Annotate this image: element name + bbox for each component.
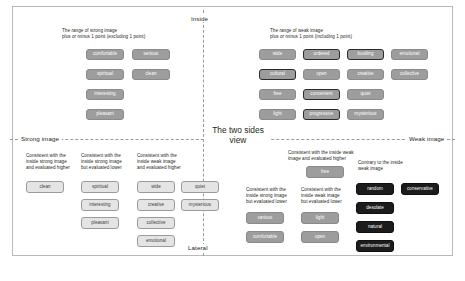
- box-open-lateral: open: [301, 231, 339, 243]
- box-progressive: progressive: [303, 109, 340, 120]
- box-environmental: environmental: [356, 240, 394, 252]
- box-interesting: interesting: [86, 89, 124, 100]
- axis-label-lateral: Lateral: [185, 244, 211, 251]
- box-cultural: cultural: [259, 69, 296, 80]
- caption-br-group-3: Consistent with the inside weak image bu…: [301, 187, 349, 205]
- box-open-top: open: [303, 69, 340, 80]
- box-serious: serious: [132, 49, 170, 60]
- vertical-axis: [203, 10, 204, 256]
- box-light-lateral: light: [301, 212, 339, 224]
- box-light-top: light: [259, 109, 296, 120]
- box-free-lateral: free: [306, 166, 344, 178]
- box-mysterious-top: mysterious: [347, 109, 384, 120]
- box-natural: natural: [356, 221, 394, 233]
- box-pleasant: pleasant: [86, 109, 124, 120]
- caption-bl-group-1: Consistent with the inside strong image …: [26, 153, 74, 171]
- box-convenient: convenient: [303, 89, 340, 100]
- box-creative-lateral: creative: [137, 199, 175, 211]
- box-clean-lateral: clean: [26, 181, 64, 193]
- box-collective-top: collective: [391, 69, 428, 80]
- box-random: random: [356, 183, 394, 195]
- box-spiritual-lateral: spiritual: [81, 181, 119, 193]
- box-interesting-lateral: interesting: [81, 199, 119, 211]
- box-wide-lateral: wide: [137, 181, 175, 193]
- box-collective-lateral: collective: [137, 217, 175, 229]
- center-label: The two sides view: [206, 125, 270, 146]
- box-comfortable-lateral: comfortable: [246, 231, 284, 243]
- box-ordered: ordered: [303, 49, 340, 60]
- box-quiet-lateral: quiet: [181, 181, 219, 193]
- caption-bl-group-2: Consistent with the inside strong image …: [81, 153, 129, 171]
- axis-label-inside: Inside: [188, 15, 211, 22]
- box-bustling: bustling: [347, 49, 384, 60]
- caption-bl-group-3: Consistent with the inside weak image an…: [137, 153, 187, 171]
- box-quiet-top: quiet: [347, 89, 384, 100]
- caption-br-group-4: Contrary to the inside weak image: [358, 160, 418, 172]
- box-conservative: conservative: [401, 183, 439, 195]
- box-various-lateral: various: [246, 212, 284, 224]
- box-spiritual: spiritual: [86, 69, 124, 80]
- caption-strong-range: The range of strong image plus or minus …: [62, 28, 192, 40]
- box-emotional-top: emotional: [391, 49, 428, 60]
- axis-label-strong-image: Strong image: [18, 135, 62, 142]
- box-wide: wide: [259, 49, 296, 60]
- caption-br-group-2: Consistent with the inside strong image …: [246, 187, 294, 205]
- figure-canvas: Inside Lateral Strong image Weak image T…: [0, 0, 465, 281]
- box-mysterious-lateral: mysterious: [181, 199, 219, 211]
- box-free-top: free: [259, 89, 296, 100]
- box-desolate: desolate: [356, 202, 394, 214]
- box-clean: clean: [132, 69, 170, 80]
- axis-label-weak-image: Weak image: [406, 135, 447, 142]
- box-comfortable: comfortable: [86, 49, 124, 60]
- box-pleasant-lateral: pleasant: [81, 217, 119, 229]
- box-emotional-lateral: emotional: [137, 235, 175, 247]
- box-creative-top: creative: [347, 69, 384, 80]
- caption-weak-range: The range of weak image plus or minus 1 …: [270, 28, 420, 40]
